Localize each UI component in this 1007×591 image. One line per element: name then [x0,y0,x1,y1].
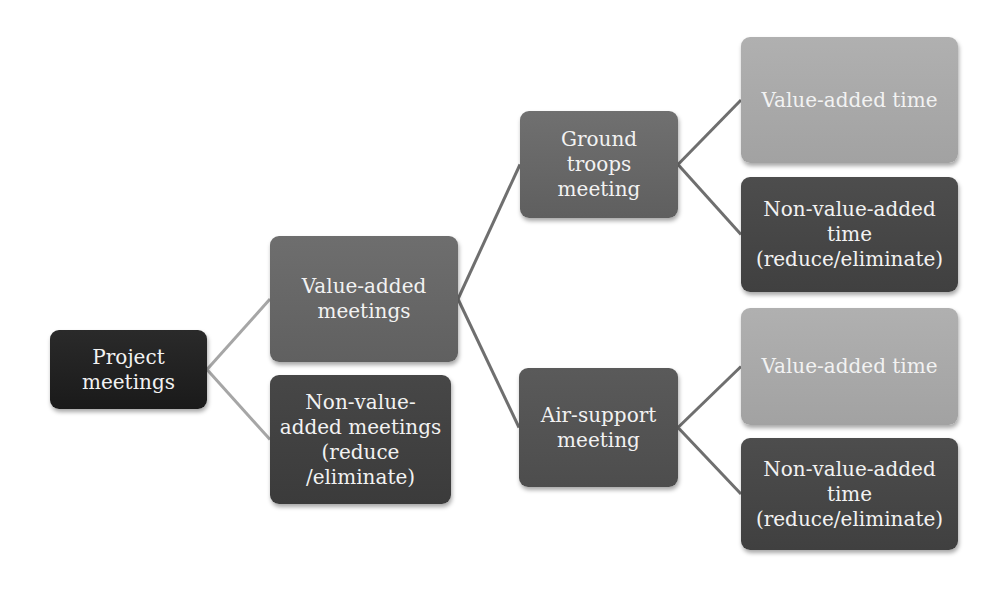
node-value-added-meetings: Value-added meetings [270,236,458,362]
node-label: Ground troops meeting [528,127,670,202]
node-label: Non-value-added meetings (reduce /elimin… [278,390,443,490]
node-label: Non-value-added time (reduce/eliminate) [749,457,950,532]
connector-root-to-non-value-added-meetings [207,370,270,440]
node-ground-troops-meeting: Ground troops meeting [520,111,678,218]
node-air-non-value-added-time: Non-value-added time (reduce/eliminate) [741,438,958,550]
node-project-meetings: Project meetings [50,330,207,409]
connector-ground-troops-meeting-to-ground-non-value-added-time [678,165,741,235]
connector-value-added-meetings-to-ground-troops-meeting [458,165,520,300]
node-label: Value-added meetings [278,274,450,324]
connector-ground-troops-meeting-to-ground-value-added-time [678,100,741,165]
connector-air-support-meeting-to-air-value-added-time [678,367,741,428]
node-label: Value-added time [761,354,937,379]
node-ground-non-value-added-time: Non-value-added time (reduce/eliminate) [741,177,958,292]
diagram-canvas: Project meetings Value-added meetings No… [0,0,1007,591]
connector-root-to-value-added-meetings [207,299,270,370]
node-label: Project meetings [58,345,199,395]
node-air-support-meeting: Air-support meeting [519,368,678,487]
node-label: Value-added time [761,88,937,113]
connector-air-support-meeting-to-air-non-value-added-time [678,428,741,495]
node-non-value-added-meetings: Non-value-added meetings (reduce /elimin… [270,375,451,504]
node-label: Non-value-added time (reduce/eliminate) [749,197,950,272]
node-ground-value-added-time: Value-added time [741,37,958,163]
node-label: Air-support meeting [527,403,670,453]
node-air-value-added-time: Value-added time [741,308,958,425]
connector-value-added-meetings-to-air-support-meeting [458,299,519,428]
